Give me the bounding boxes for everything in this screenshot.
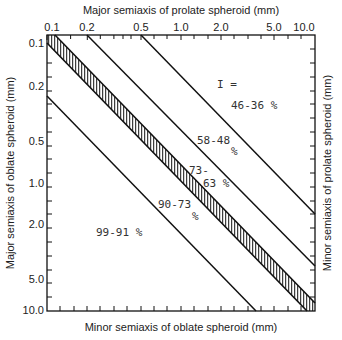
left-tick-label: 0.1: [29, 37, 44, 49]
top-tick-label: 0.1: [44, 21, 59, 33]
label-region-90-73-pct: %: [192, 210, 199, 223]
top-ticks: [47, 35, 301, 40]
left-tick-label: 0.2: [29, 80, 44, 92]
chart-svg: Major semiaxis of prolate spheroid (mm) …: [0, 0, 342, 340]
label-region-46-36: 46-36 %: [231, 99, 278, 112]
label-region-58-48: 58-48: [197, 134, 230, 147]
bottom-ticks: [60, 306, 301, 311]
bottom-axis-title: Minor semiaxis of oblate spheroid (mm): [85, 321, 278, 333]
left-tick-label: 5.0: [29, 273, 44, 285]
band-upper-edge: [55, 35, 315, 303]
right-axis-title: Minor semiaxis of prolate spheroid (mm): [321, 75, 333, 271]
left-axis-title: Major semiaxis of oblate spheroid (mm): [4, 77, 16, 270]
chart: Major semiaxis of prolate spheroid (mm) …: [0, 0, 342, 340]
left-tick-label: 1.0: [29, 177, 44, 189]
top-tick-label: 1.0: [173, 21, 188, 33]
top-axis-title: Major semiaxis of prolate spheroid (mm): [83, 4, 279, 16]
left-tick-label: 2.0: [29, 218, 44, 230]
label-i-equals: I =: [217, 78, 237, 91]
left-tick-label: 0.5: [29, 135, 44, 147]
band-lower-edge: [47, 43, 307, 311]
top-tick-label: 5.0: [266, 21, 281, 33]
boundary-line-left: [47, 96, 256, 311]
label-region-73-63: 73-: [189, 164, 209, 177]
top-tick-label: 0.2: [79, 21, 94, 33]
label-region-73-63-pct: 63 %: [203, 177, 230, 190]
right-ticks: [310, 49, 315, 297]
top-tick-label: 2.0: [213, 21, 228, 33]
label-region-58-48-pct: %: [231, 145, 238, 158]
label-region-90-73: 90-73: [158, 198, 191, 211]
label-region-99-91: 99-91 %: [96, 226, 143, 239]
left-tick-label: 10.0: [23, 304, 44, 316]
top-tick-label: 0.5: [133, 21, 148, 33]
top-tick-label: 10.0: [293, 21, 314, 33]
